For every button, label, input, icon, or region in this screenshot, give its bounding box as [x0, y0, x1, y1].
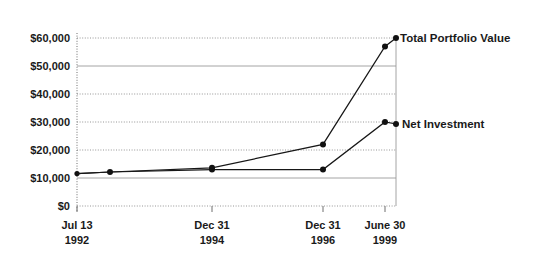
datapoint-ni-3 [209, 167, 215, 173]
x-axis-labels: Jul 13 1992 Dec 31 1994 Dec 31 1996 June… [61, 219, 405, 246]
series-annotations: Total Portfolio Value Net Investment [400, 32, 510, 130]
xtick-label-3-year: 1996 [311, 234, 335, 246]
xtick-label-2-month: Dec 31 [194, 219, 229, 231]
chart-frame [77, 33, 396, 212]
ytick-label-20000: $20,000 [30, 144, 70, 156]
ytick-label-30000: $30,000 [30, 116, 70, 128]
line-chart: $60,000 $50,000 $40,000 $30,000 $20,000 … [0, 0, 540, 272]
series-net-investment [77, 119, 399, 174]
datapoint-ni-6 [393, 121, 399, 127]
datapoint-ni-4 [320, 167, 326, 173]
ytick-label-10000: $10,000 [30, 172, 70, 184]
datapoint-tpv-5 [382, 43, 388, 49]
series-total-portfolio-value [74, 35, 399, 176]
datapoint-ni-5 [382, 119, 388, 125]
ytick-label-40000: $40,000 [30, 88, 70, 100]
chart-canvas: $60,000 $50,000 $40,000 $30,000 $20,000 … [0, 0, 540, 272]
ytick-label-0: $0 [58, 200, 70, 212]
series-label-net-investment: Net Investment [402, 118, 485, 130]
datapoint-tpv-4 [320, 141, 326, 147]
ytick-label-60000: $60,000 [30, 32, 70, 44]
xtick-label-1-month: Jul 13 [61, 219, 92, 231]
x-tickmarks [77, 206, 385, 212]
xtick-label-2-year: 1994 [200, 234, 225, 246]
gridlines [77, 38, 396, 206]
y-axis-labels: $60,000 $50,000 $40,000 $30,000 $20,000 … [30, 32, 70, 212]
xtick-label-4-year: 1999 [373, 234, 397, 246]
series-label-total-portfolio-value: Total Portfolio Value [400, 32, 510, 44]
xtick-label-1-year: 1992 [65, 234, 89, 246]
series-line-net-investment [77, 122, 396, 174]
ytick-label-50000: $50,000 [30, 60, 70, 72]
datapoint-tpv-6 [393, 35, 399, 41]
xtick-label-4-month: June 30 [365, 219, 406, 231]
series-line-total-portfolio-value [77, 38, 396, 174]
xtick-label-3-month: Dec 31 [305, 219, 340, 231]
